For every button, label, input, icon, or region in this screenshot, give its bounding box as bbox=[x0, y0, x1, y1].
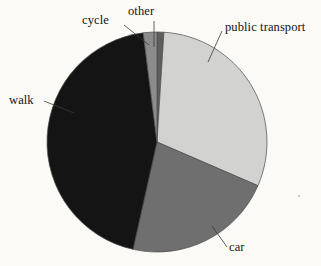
scan-speck bbox=[298, 195, 300, 197]
pie-slices bbox=[47, 32, 267, 252]
pie-label-car: car bbox=[229, 241, 245, 254]
pie-chart-svg bbox=[0, 0, 321, 266]
pie-slice-walk[interactable] bbox=[47, 33, 157, 249]
pie-label-walk: walk bbox=[9, 94, 34, 107]
pie-label-cycle: cycle bbox=[82, 14, 109, 27]
pie-chart-figure: cycle other public transport walk car bbox=[0, 0, 321, 266]
pie-label-public-transport: public transport bbox=[225, 21, 305, 34]
pie-label-other: other bbox=[128, 5, 154, 18]
